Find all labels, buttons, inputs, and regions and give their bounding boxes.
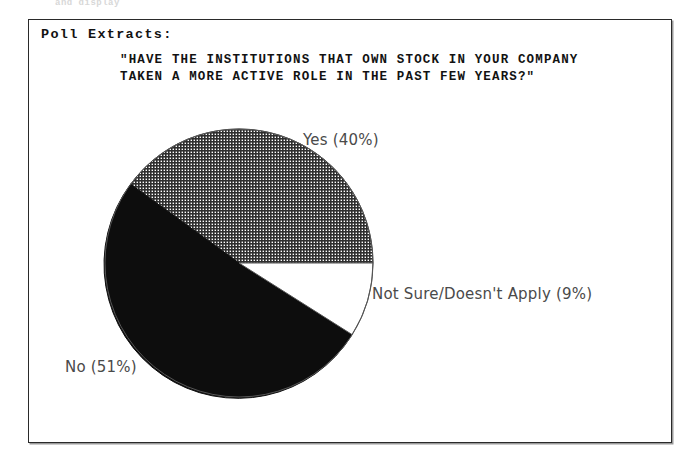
pie-chart-svg (0, 0, 686, 465)
pie-chart: Yes (40%) Not Sure/Doesn't Apply (9%) No… (0, 0, 686, 465)
pie-label-not-sure: Not Sure/Doesn't Apply (9%) (372, 285, 592, 303)
pie-label-no: No (51%) (65, 358, 137, 376)
pie-label-yes: Yes (40%) (303, 131, 379, 149)
